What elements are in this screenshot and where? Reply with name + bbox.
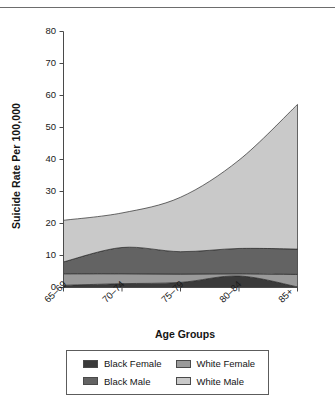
y-axis-tick-label: 20 xyxy=(30,217,56,228)
legend-swatch-icon xyxy=(176,360,191,368)
y-axis-tick-label: 70 xyxy=(30,57,56,68)
y-axis-tick-label: 80 xyxy=(30,25,56,36)
chart-plot-area xyxy=(64,104,298,287)
legend-item[interactable]: Black Male xyxy=(83,376,176,387)
legend-label: Black Female xyxy=(104,358,162,369)
legend-swatch-icon xyxy=(83,377,98,385)
legend-swatch-icon xyxy=(83,360,98,368)
legend-item[interactable]: White Female xyxy=(176,358,269,369)
chart-legend: Black FemaleWhite FemaleBlack MaleWhite … xyxy=(66,350,269,395)
y-axis-tick-label: 40 xyxy=(30,153,56,164)
legend-swatch-icon xyxy=(176,377,191,385)
chart-figure: Suicide Rate Per 100,000 Age Groups 0102… xyxy=(0,0,335,416)
legend-label: White Male xyxy=(197,376,245,387)
legend-label: White Female xyxy=(197,358,256,369)
legend-item[interactable]: Black Female xyxy=(83,358,176,369)
y-axis-tick-label: 10 xyxy=(30,249,56,260)
legend-item[interactable]: White Male xyxy=(176,376,269,387)
y-axis-title: Suicide Rate Per 100,000 xyxy=(10,71,22,261)
area-band-white-male xyxy=(64,104,298,261)
x-axis-title: Age Groups xyxy=(60,328,310,340)
y-axis-tick-label: 30 xyxy=(30,185,56,196)
y-axis-tick-label: 50 xyxy=(30,121,56,132)
legend-label: Black Male xyxy=(104,376,150,387)
y-axis-tick-label: 60 xyxy=(30,89,56,100)
